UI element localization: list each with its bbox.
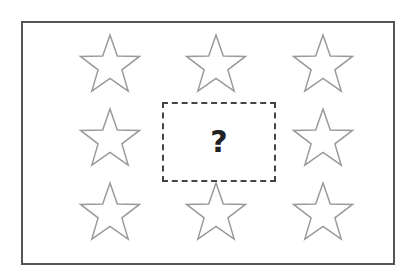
star-icon [78,180,142,242]
question-mark: ? [210,127,227,157]
star-icon [78,32,142,94]
star-icon [184,180,248,242]
missing-item-box: ? [162,102,276,182]
star-icon [184,32,248,94]
star-icon [291,106,355,168]
star-icon [291,32,355,94]
star-icon [291,180,355,242]
star-icon [78,106,142,168]
